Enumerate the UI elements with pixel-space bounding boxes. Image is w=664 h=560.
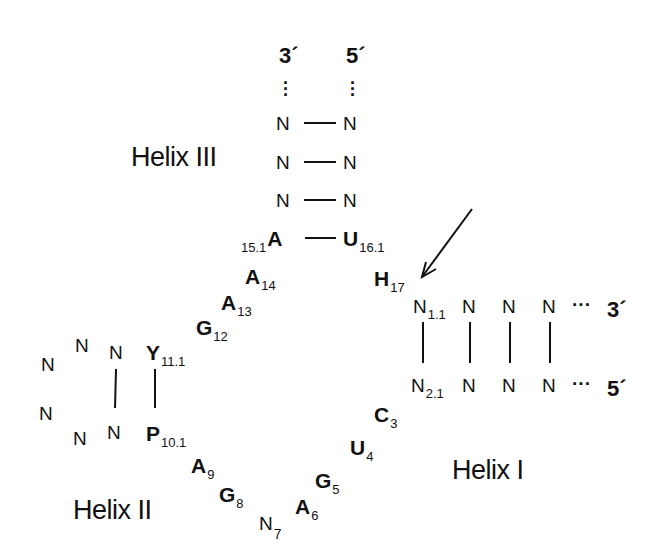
nucleotide-U16-1: U16.1 — [343, 228, 384, 254]
helix1-top-base: N — [502, 297, 516, 316]
nucleotide-U4: U4 — [350, 437, 373, 463]
nucleotide-G12: G12 — [196, 317, 228, 343]
helix3-left-ellipsis: ··· — [283, 80, 289, 98]
nucleotide-A9: A9 — [191, 455, 214, 481]
nucleotide-C3: C3 — [374, 404, 397, 430]
helix1-label: Helix I — [452, 457, 524, 484]
nucleotide-G5: G5 — [315, 470, 340, 496]
nucleotide-P10-1: P10.1 — [146, 423, 186, 449]
nucleotide-N7: N7 — [259, 514, 282, 541]
nucleotide-Y11-1: Y11.1 — [146, 342, 185, 368]
helix1-bottom-base: N — [502, 376, 516, 395]
helix3-right-base: N — [343, 191, 357, 210]
helix2-loop-base: N — [75, 336, 89, 355]
helix3-right-base: N — [343, 153, 357, 172]
helix2-loop-base: N — [107, 423, 121, 442]
nucleotide-N1-1: N1.1 — [413, 297, 446, 321]
nucleotide-A6: A6 — [295, 496, 318, 522]
nucleotide-N2-1: N2.1 — [411, 376, 444, 400]
hammerhead-ribozyme-diagram: 3´ 5´ ··· ··· N N N N N N 15.1A U16.1 He… — [0, 0, 664, 560]
helix1-top-ellipsis: ··· — [572, 295, 591, 314]
nucleotide-H17-cleavage-site: H17 — [374, 268, 405, 294]
helix3-right-ellipsis: ··· — [350, 80, 356, 98]
helix1-top-base: N — [462, 297, 476, 316]
helix3-left-base: N — [276, 153, 290, 172]
helix1-bottom-base: N — [462, 376, 476, 395]
helix3-left-base: N — [276, 114, 290, 133]
helix1-5prime-end: 5´ — [607, 378, 627, 400]
helix3-5prime-end: 5´ — [346, 45, 366, 67]
helix2-loop-base: N — [41, 355, 55, 374]
helix1-bottom-base: N — [542, 376, 556, 395]
nucleotide-A13: A13 — [221, 292, 252, 318]
nucleotide-A15-1: 15.1A — [241, 228, 282, 254]
nucleotide-G8: G8 — [219, 484, 244, 510]
helix2-loop-base: N — [39, 404, 53, 423]
nucleotide-A14: A14 — [245, 266, 276, 292]
helix2-loop-base: N — [109, 343, 123, 362]
helix1-3prime-end: 3´ — [607, 299, 627, 321]
helix3-right-base: N — [343, 114, 357, 133]
helix2-label: Helix II — [73, 497, 152, 524]
helix3-label: Helix III — [131, 144, 217, 171]
helix3-left-base: N — [276, 191, 290, 210]
helix1-top-base: N — [542, 297, 556, 316]
helix1-bottom-ellipsis: ··· — [572, 374, 591, 393]
helix3-3prime-end: 3´ — [279, 45, 299, 67]
helix2-loop-base: N — [73, 429, 87, 448]
